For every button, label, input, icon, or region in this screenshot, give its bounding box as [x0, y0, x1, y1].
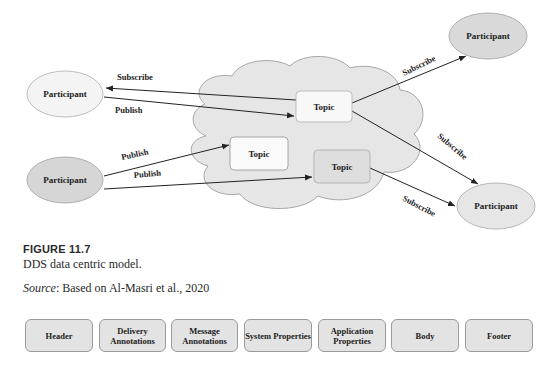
segment-footer: Footer	[465, 319, 533, 352]
figure-source: Source: Based on Al-Masri et al., 2020	[23, 281, 209, 296]
topic-label: Topic	[248, 149, 269, 159]
label-publish-p2a: Publish	[120, 146, 149, 162]
segment-delivery-annotations: Delivery Annotations	[99, 319, 166, 352]
label-subscribe-p4-top: Subscribe	[436, 131, 470, 162]
dds-diagram: Subscribe Publish Publish Publish Subscr…	[0, 0, 558, 240]
figure-number: FIGURE 11.7	[23, 243, 91, 255]
figure-title: DDS data centric model.	[23, 257, 142, 272]
segment-application-properties: Application Properties	[318, 319, 386, 352]
participant-label: Participant	[43, 89, 87, 99]
segment-system-properties: System Properties	[244, 319, 312, 352]
participant-bottom-left: Participant	[27, 157, 103, 203]
topic-3: Topic	[314, 150, 370, 183]
participant-label: Participant	[466, 31, 510, 41]
segment-body: Body	[391, 319, 459, 352]
label-subscribe-p4-bottom: Subscribe	[401, 193, 438, 219]
participant-top-right: Participant	[449, 13, 527, 59]
topic-2: Topic	[230, 137, 288, 170]
label-publish-p1: Publish	[115, 105, 143, 115]
segment-message-annotations: Message Annotations	[171, 319, 238, 352]
label-subscribe-p1: Subscribe	[117, 72, 153, 82]
segment-header: Header	[25, 319, 93, 352]
participant-top-left: Participant	[27, 71, 103, 117]
participant-bottom-right: Participant	[457, 183, 535, 229]
topic-1: Topic	[296, 91, 352, 122]
source-label: Source	[23, 281, 56, 295]
label-publish-p2b: Publish	[133, 168, 161, 180]
topic-label: Topic	[331, 162, 352, 172]
participant-label: Participant	[43, 175, 87, 185]
label-subscribe-p3: Subscribe	[400, 53, 437, 78]
source-text: : Based on Al-Masri et al., 2020	[56, 281, 209, 295]
topic-label: Topic	[313, 102, 334, 112]
participant-label: Participant	[474, 201, 518, 211]
